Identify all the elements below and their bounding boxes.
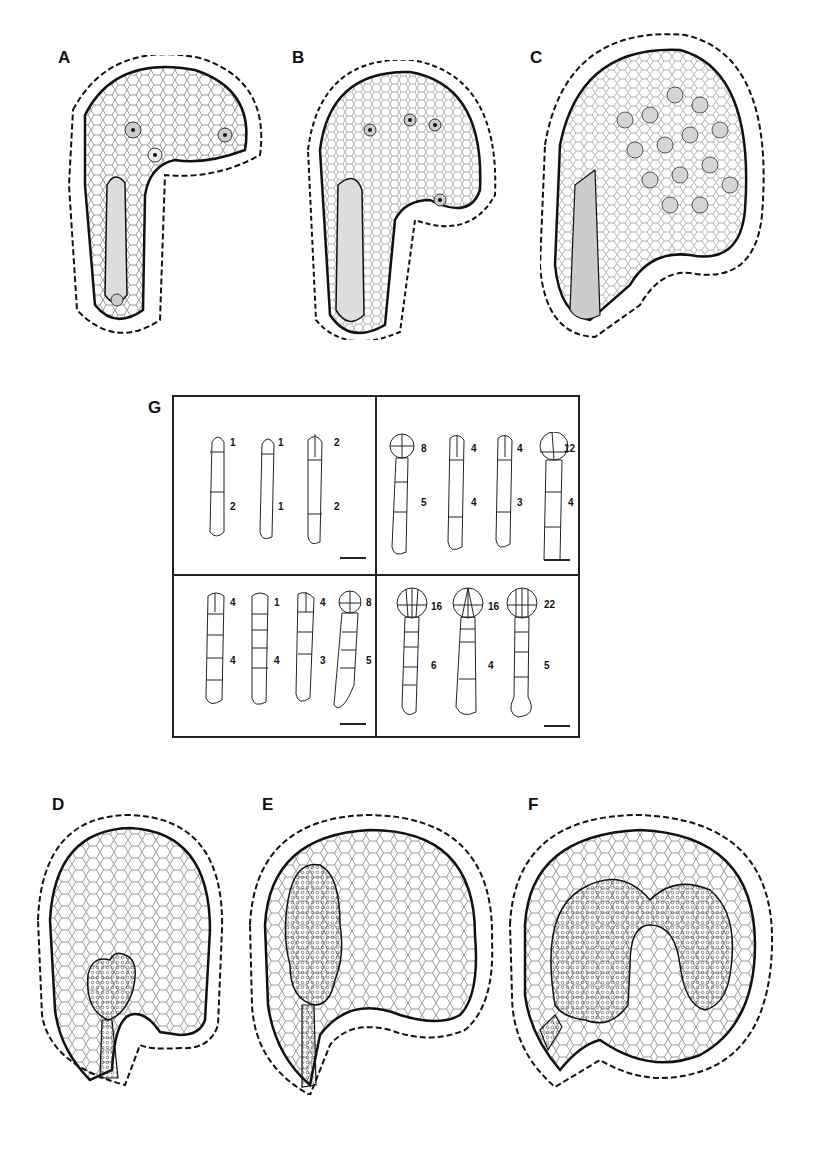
cell-count-head: 16 [431, 601, 442, 612]
cell-count-body: 4 [568, 497, 574, 508]
cell-count-body: 4 [488, 660, 494, 671]
panel-g-frame: 1 2 1 1 2 2 8 5 4 4 4 3 12 4 [172, 395, 580, 738]
cell-count-body: 2 [334, 501, 340, 512]
cell-count-head: 4 [517, 443, 523, 454]
cell-count-body: 3 [517, 497, 523, 508]
cell-count-body: 4 [471, 497, 477, 508]
embryo-outlines [388, 432, 578, 567]
scale-bar [544, 559, 570, 561]
cell-count-head: 1 [278, 437, 284, 448]
ovule-drawing-b [300, 60, 510, 340]
panel-g-quadrant-top-right: 8 5 4 4 4 3 12 4 [376, 397, 582, 574]
cell-count-head: 4 [471, 443, 477, 454]
cell-count-head: 4 [320, 597, 326, 608]
cell-count-head: 1 [274, 597, 280, 608]
embryo-outlines [202, 590, 362, 715]
scale-bar [340, 723, 366, 725]
cell-count-head: 22 [544, 599, 555, 610]
ovule-drawing-f [500, 805, 785, 1090]
cell-count-head: 1 [230, 437, 236, 448]
ovule-drawing-a [55, 55, 270, 340]
cell-count-head: 4 [230, 597, 236, 608]
scale-bar [544, 725, 570, 727]
cell-count-head: 12 [564, 443, 575, 454]
embryo-outlines [396, 587, 566, 727]
panel-g-quadrant-bottom-right: 16 6 16 4 22 5 [376, 575, 582, 738]
ovule-drawing-e [240, 805, 505, 1095]
cell-count-head: 8 [421, 443, 427, 454]
cell-count-head: 16 [488, 601, 499, 612]
cell-count-body: 1 [278, 501, 284, 512]
embryo-outlines [204, 432, 344, 547]
cell-count-body: 5 [544, 660, 550, 671]
panel-label-g: G [148, 398, 161, 418]
cell-count-body: 4 [230, 655, 236, 666]
cell-count-body: 5 [421, 497, 427, 508]
panel-g-quadrant-top-left: 1 2 1 1 2 2 [174, 397, 375, 574]
scale-bar [340, 557, 366, 559]
cell-count-head: 2 [334, 437, 340, 448]
panel-g-quadrant-bottom-left: 4 4 1 4 4 3 8 5 [174, 575, 375, 738]
cell-count-body: 6 [431, 660, 437, 671]
cell-count-head: 8 [366, 597, 372, 608]
cell-count-body: 2 [230, 501, 236, 512]
cell-count-body: 5 [366, 655, 372, 666]
cell-count-body: 4 [274, 655, 280, 666]
ovule-drawing-d [30, 810, 240, 1090]
cell-count-body: 3 [320, 655, 326, 666]
ovule-drawing-c [540, 25, 775, 340]
